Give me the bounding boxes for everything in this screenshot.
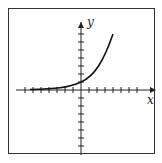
- exponential-curve: [30, 34, 113, 90]
- graph: [0, 0, 162, 163]
- y-arrow-icon: [78, 22, 84, 28]
- y-axis-label: y: [87, 15, 94, 29]
- x-axis-label: x: [147, 93, 154, 107]
